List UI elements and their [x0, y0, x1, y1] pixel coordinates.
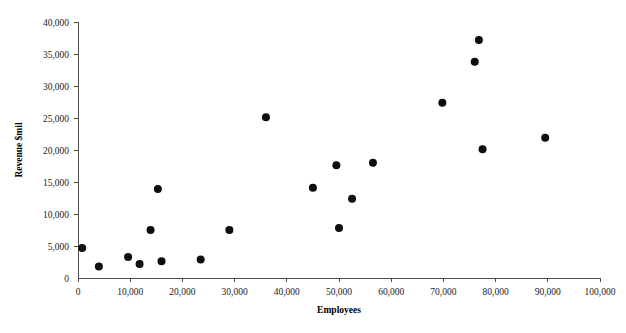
data-point	[438, 99, 446, 107]
x-tick-label: 0	[76, 287, 81, 297]
y-tick-label: 30,000	[43, 82, 69, 92]
data-point	[197, 255, 205, 263]
data-point	[78, 244, 86, 252]
x-tick-label: 60,000	[378, 287, 404, 297]
data-point	[124, 253, 132, 261]
x-tick-label: 70,000	[430, 287, 456, 297]
x-tick-label: 80,000	[483, 287, 509, 297]
y-tick-label: 20,000	[43, 146, 69, 156]
y-tick-label: 0	[64, 274, 69, 284]
chart-canvas: 010,00020,00030,00040,00050,00060,00070,…	[0, 0, 626, 333]
data-point	[95, 262, 103, 270]
data-points-group	[78, 36, 549, 271]
y-axis-tick-labels: 05,00010,00015,00020,00025,00030,00035,0…	[43, 18, 69, 284]
y-axis-title: Revenue $mil	[14, 122, 24, 178]
data-point	[262, 113, 270, 121]
y-tick-label: 40,000	[43, 18, 69, 28]
data-point	[147, 226, 155, 234]
x-tick-label: 30,000	[222, 287, 248, 297]
x-axis-tick-labels: 010,00020,00030,00040,00050,00060,00070,…	[76, 287, 616, 297]
data-point	[335, 224, 343, 232]
x-tick-label: 40,000	[274, 287, 300, 297]
axes-group	[74, 22, 600, 282]
data-point	[475, 36, 483, 44]
data-point	[309, 184, 317, 192]
data-point	[158, 257, 166, 265]
data-point	[136, 260, 144, 268]
y-tick-label: 10,000	[43, 210, 69, 220]
scatter-chart: 010,00020,00030,00040,00050,00060,00070,…	[0, 0, 626, 333]
x-tick-label: 100,000	[585, 287, 616, 297]
data-point	[225, 226, 233, 234]
y-tick-label: 25,000	[43, 114, 69, 124]
data-point	[369, 159, 377, 167]
x-tick-label: 90,000	[535, 287, 561, 297]
data-point	[541, 134, 549, 142]
data-point	[154, 185, 162, 193]
x-axis-title: Employees	[317, 305, 361, 315]
x-tick-label: 50,000	[326, 287, 352, 297]
data-point	[332, 161, 340, 169]
y-tick-label: 5,000	[48, 242, 70, 252]
data-point	[348, 195, 356, 203]
data-point	[471, 58, 479, 66]
y-tick-label: 35,000	[43, 50, 69, 60]
x-tick-label: 20,000	[169, 287, 195, 297]
data-point	[479, 145, 487, 153]
y-tick-label: 15,000	[43, 178, 69, 188]
x-tick-label: 10,000	[117, 287, 143, 297]
